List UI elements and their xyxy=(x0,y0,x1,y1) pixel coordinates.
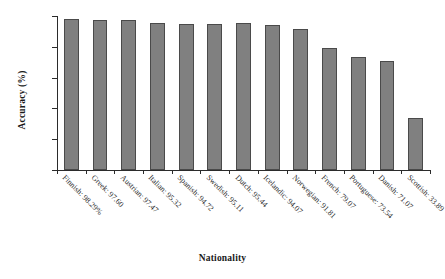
bar-icelandic xyxy=(265,25,280,170)
bar-scottish xyxy=(408,118,423,170)
y-tick xyxy=(52,139,57,140)
x-axis-line xyxy=(57,170,430,171)
bar-series xyxy=(57,16,430,170)
bar-spanish xyxy=(179,24,194,170)
bar-chart: Accuracy (%) 020406080100 Finnish: 98.29… xyxy=(0,0,445,279)
bar-greek xyxy=(93,20,108,170)
bar-italian xyxy=(150,23,165,170)
bar-dutch xyxy=(236,23,251,170)
bar-austrian xyxy=(121,20,136,170)
y-tick xyxy=(52,47,57,48)
x-axis-tick-labels: Finnish: 98.29%Greek: 97.60Austrian: 97.… xyxy=(57,173,430,253)
bar-french xyxy=(322,48,337,170)
plot-area xyxy=(57,16,430,170)
bar-portuguese xyxy=(351,57,366,170)
y-axis-title: Accuracy (%) xyxy=(17,40,27,160)
bar-norwegian xyxy=(293,29,308,170)
y-tick xyxy=(52,78,57,79)
y-tick xyxy=(52,108,57,109)
bar-swedish xyxy=(207,24,222,170)
bar-danish xyxy=(380,61,395,170)
y-tick xyxy=(52,16,57,17)
x-tick xyxy=(430,170,431,174)
bar-finnish xyxy=(64,19,79,170)
x-axis-title: Nationality xyxy=(0,253,445,263)
